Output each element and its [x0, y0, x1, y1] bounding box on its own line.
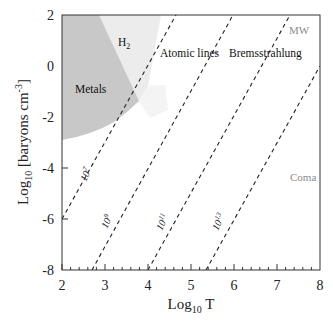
y-tick-labels: 2 0 -2 -4 -6 -8: [42, 8, 54, 278]
cooling-diagram-chart: 2 3 4 5 6 7 8 2 0 -2 -4 -6 -8 Log10 T Lo…: [0, 0, 333, 323]
coma-label: Coma: [290, 171, 316, 183]
y-tick-neg6: -6: [42, 212, 54, 227]
x-tick-3: 3: [102, 278, 109, 293]
regions: [62, 15, 168, 140]
bremsstrahlung-label: Bremsstrahlung: [229, 47, 302, 60]
label-1e11: 1011: [153, 212, 171, 232]
y-tick-2: 2: [47, 8, 54, 23]
x-tick-7: 7: [274, 278, 281, 293]
x-tick-2: 2: [59, 278, 66, 293]
mw-label: MW: [289, 24, 310, 36]
y-tick-neg8: -8: [42, 263, 54, 278]
x-ticks: [62, 264, 311, 270]
label-1e7: 107: [77, 165, 94, 183]
label-1e13: 1013: [209, 211, 227, 232]
y-tick-neg2: -2: [42, 110, 54, 125]
y-ticks: [62, 168, 68, 219]
y-axis-label: Log10 [baryons cm-3]: [13, 79, 34, 205]
x-tick-6: 6: [231, 278, 238, 293]
x-tick-labels: 2 3 4 5 6 7 8: [59, 278, 324, 293]
label-1e9: 109: [98, 212, 115, 230]
y-tick-0: 0: [47, 59, 54, 74]
metals-label: Metals: [75, 83, 107, 95]
x-tick-8: 8: [317, 278, 324, 293]
mw-path-marker: +: [213, 47, 219, 58]
atomic-lines-label: Atomic lines: [160, 47, 220, 59]
x-axis-label: Log10 T: [168, 296, 215, 315]
x-tick-4: 4: [145, 278, 152, 293]
y-tick-neg4: -4: [42, 161, 54, 176]
x-tick-5: 5: [188, 278, 195, 293]
line-1e13: [206, 66, 320, 270]
